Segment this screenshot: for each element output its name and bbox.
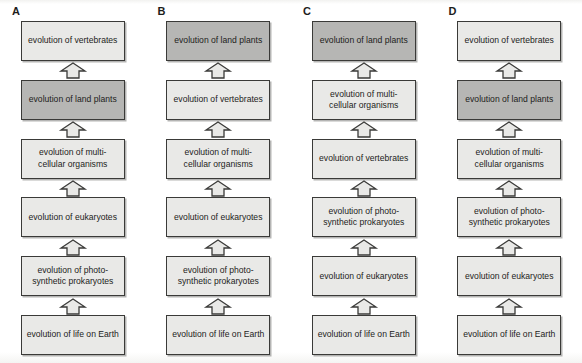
sequence-node-label: evolution of land plants	[465, 94, 553, 105]
sequence-step: evolution of land plants	[457, 80, 561, 120]
sequence-node-highlighted[interactable]: evolution of land plants	[312, 21, 416, 61]
sequence-chain: evolution of vertebratesevolution of lan…	[457, 21, 561, 355]
sequence-node-label: evolution of photo-synthetic prokaryotes	[462, 206, 556, 228]
sequence-step: evolution of multi-cellular organisms	[166, 139, 270, 179]
sequence-node[interactable]: evolution of multi-cellular organisms	[457, 139, 561, 179]
sequence-node-label: evolution of photo-synthetic prokaryotes	[317, 206, 411, 228]
sequence-node-label: evolution of land plants	[320, 35, 408, 46]
up-block-arrow-icon	[205, 239, 231, 255]
sequence-node-label: evolution of vertebrates	[465, 35, 554, 46]
up-block-arrow-icon	[351, 298, 377, 314]
sequence-node-label: evolution of land plants	[174, 35, 262, 46]
option-column-d[interactable]: Devolution of vertebratesevolution of la…	[437, 5, 582, 355]
sequence-node[interactable]: evolution of vertebrates	[21, 21, 125, 61]
up-block-arrow-icon	[496, 239, 522, 255]
sequence-step: evolution of vertebrates	[312, 139, 416, 179]
sequence-node-highlighted[interactable]: evolution of land plants	[21, 80, 125, 120]
option-column-c[interactable]: Cevolution of land plantsevolution of mu…	[291, 5, 437, 355]
sequence-step: evolution of eukaryotes	[21, 197, 125, 237]
sequence-step: evolution of photo-synthetic prokaryotes	[166, 256, 270, 296]
sequence-step: evolution of life on Earth	[166, 315, 270, 355]
up-block-arrow-icon	[205, 121, 231, 137]
sequence-step: evolution of life on Earth	[312, 315, 416, 355]
sequence-step: evolution of eukaryotes	[312, 256, 416, 296]
sequence-node[interactable]: evolution of multi-cellular organisms	[312, 80, 416, 120]
up-block-arrow-icon	[496, 180, 522, 196]
sequence-node-highlighted[interactable]: evolution of land plants	[457, 80, 561, 120]
up-block-arrow-icon	[351, 121, 377, 137]
sequence-node[interactable]: evolution of vertebrates	[312, 139, 416, 179]
sequence-step: evolution of photo-synthetic prokaryotes	[21, 256, 125, 296]
option-column-a[interactable]: Aevolution of vertebratesevolution of la…	[0, 5, 146, 355]
up-block-arrow-icon	[351, 239, 377, 255]
option-column-b[interactable]: Bevolution of land plantsevolution of ve…	[146, 5, 292, 355]
sequence-node[interactable]: evolution of photo-synthetic prokaryotes	[166, 256, 270, 296]
sequence-step: evolution of photo-synthetic prokaryotes	[457, 197, 561, 237]
up-block-arrow-icon	[205, 180, 231, 196]
sequence-node-label: evolution of multi-cellular organisms	[317, 89, 411, 111]
sequence-node-label: evolution of life on Earth	[318, 329, 410, 340]
sequence-step: evolution of land plants	[312, 21, 416, 61]
up-block-arrow-icon	[496, 298, 522, 314]
sequence-step: evolution of life on Earth	[21, 315, 125, 355]
up-block-arrow-icon	[60, 121, 86, 137]
sequence-node-label: evolution of life on Earth	[27, 329, 119, 340]
sequence-chain: evolution of land plantsevolution of ver…	[166, 21, 270, 355]
sequence-node-label: evolution of multi-cellular organisms	[171, 147, 265, 169]
sequence-node[interactable]: evolution of photo-synthetic prokaryotes	[21, 256, 125, 296]
sequence-node-label: evolution of photo-synthetic prokaryotes	[26, 265, 120, 287]
sequence-step: evolution of vertebrates	[166, 80, 270, 120]
sequence-node-label: evolution of vertebrates	[28, 35, 117, 46]
sequence-node[interactable]: evolution of life on Earth	[166, 315, 270, 355]
sequence-node[interactable]: evolution of eukaryotes	[312, 256, 416, 296]
sequence-node[interactable]: evolution of eukaryotes	[457, 256, 561, 296]
sequence-node-label: evolution of life on Earth	[172, 329, 264, 340]
sequence-node[interactable]: evolution of life on Earth	[21, 315, 125, 355]
up-block-arrow-icon	[496, 121, 522, 137]
up-block-arrow-icon	[60, 62, 86, 78]
sequence-node[interactable]: evolution of vertebrates	[166, 80, 270, 120]
sequence-node[interactable]: evolution of multi-cellular organisms	[166, 139, 270, 179]
sequence-node[interactable]: evolution of life on Earth	[457, 315, 561, 355]
sequence-node[interactable]: evolution of photo-synthetic prokaryotes	[312, 197, 416, 237]
up-block-arrow-icon	[496, 62, 522, 78]
sequence-node-label: evolution of multi-cellular organisms	[26, 147, 120, 169]
sequence-step: evolution of multi-cellular organisms	[21, 139, 125, 179]
sequence-node-label: evolution of eukaryotes	[465, 271, 553, 282]
sequence-node-label: evolution of eukaryotes	[320, 271, 408, 282]
sequence-step: evolution of eukaryotes	[166, 197, 270, 237]
evolution-sequence-figure: Aevolution of vertebratesevolution of la…	[0, 0, 582, 363]
up-block-arrow-icon	[205, 62, 231, 78]
option-label: C	[303, 5, 311, 21]
up-block-arrow-icon	[351, 62, 377, 78]
sequence-step: evolution of multi-cellular organisms	[312, 80, 416, 120]
sequence-node[interactable]: evolution of photo-synthetic prokaryotes	[457, 197, 561, 237]
sequence-step: evolution of vertebrates	[21, 21, 125, 61]
option-label: A	[12, 5, 20, 21]
sequence-node-label: evolution of eukaryotes	[174, 212, 262, 223]
sequence-step: evolution of land plants	[21, 80, 125, 120]
option-columns: Aevolution of vertebratesevolution of la…	[0, 0, 582, 363]
sequence-node-label: evolution of eukaryotes	[29, 212, 117, 223]
sequence-node-label: evolution of vertebrates	[319, 153, 408, 164]
sequence-node-label: evolution of vertebrates	[174, 94, 263, 105]
sequence-node-highlighted[interactable]: evolution of land plants	[166, 21, 270, 61]
sequence-node-label: evolution of photo-synthetic prokaryotes	[171, 265, 265, 287]
up-block-arrow-icon	[60, 180, 86, 196]
sequence-chain: evolution of land plantsevolution of mul…	[312, 21, 416, 355]
option-label: D	[449, 5, 457, 21]
sequence-node[interactable]: evolution of eukaryotes	[166, 197, 270, 237]
sequence-node-label: evolution of land plants	[29, 94, 117, 105]
sequence-step: evolution of life on Earth	[457, 315, 561, 355]
sequence-node[interactable]: evolution of eukaryotes	[21, 197, 125, 237]
sequence-node[interactable]: evolution of multi-cellular organisms	[21, 139, 125, 179]
option-label: B	[158, 5, 166, 21]
up-block-arrow-icon	[351, 180, 377, 196]
up-block-arrow-icon	[60, 239, 86, 255]
sequence-node[interactable]: evolution of vertebrates	[457, 21, 561, 61]
up-block-arrow-icon	[205, 298, 231, 314]
sequence-node[interactable]: evolution of life on Earth	[312, 315, 416, 355]
sequence-step: evolution of multi-cellular organisms	[457, 139, 561, 179]
sequence-step: evolution of photo-synthetic prokaryotes	[312, 197, 416, 237]
up-block-arrow-icon	[60, 298, 86, 314]
